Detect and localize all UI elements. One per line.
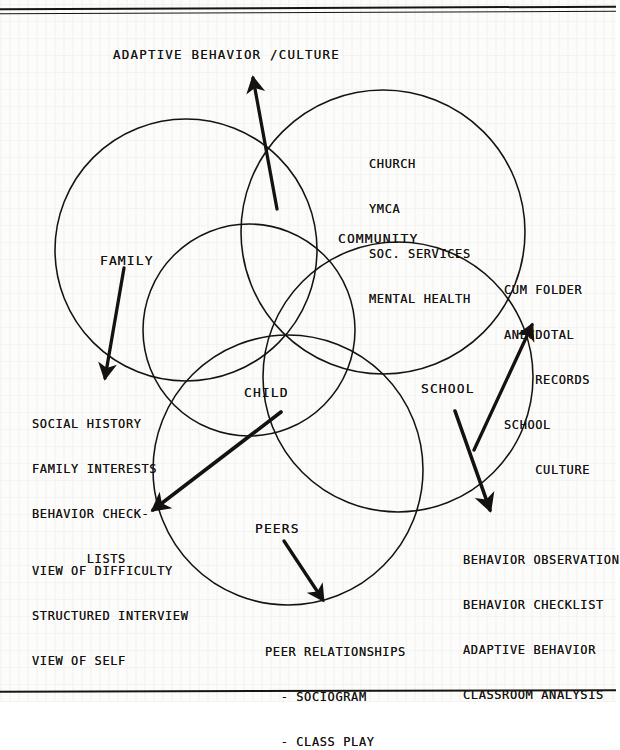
child-measure-item: STRUCTURED INTERVIEW: [32, 609, 189, 624]
family-circle: [55, 119, 317, 381]
school-circle-label: SCHOOL: [421, 382, 475, 397]
adaptive-behavior-culture-label: ADAPTIVE BEHAVIOR /CULTURE: [113, 48, 340, 63]
child-measure-item: VIEW OF DIFFICULTY: [32, 564, 189, 579]
school-record-item: ANECDOTAL: [504, 328, 590, 343]
child-circle: [143, 224, 355, 436]
arrow-adaptive-behavior-culture: [253, 78, 277, 209]
child-measure-item: VIEW OF SELF: [32, 654, 189, 669]
arrow-peer-measures: [284, 541, 323, 600]
peer-measures-list: PEER RELATIONSHIPS - SOCIOGRAM - CLASS P…: [265, 615, 406, 750]
community-circle-label: COMMUNITY: [338, 232, 418, 247]
community-resource-item: MENTAL HEALTH: [369, 292, 471, 307]
family-measure-item: BEHAVIOR CHECK-: [32, 507, 157, 522]
child-circle-label: CHILD: [244, 386, 289, 401]
school-measure-item: BEHAVIOR OBSERVATION: [463, 553, 620, 568]
community-resource-item: CHURCH: [369, 157, 471, 172]
school-record-item: RECORDS: [504, 373, 590, 388]
school-measures-list: BEHAVIOR OBSERVATION BEHAVIOR CHECKLIST …: [463, 523, 620, 733]
peer-measure-item: - CLASS PLAY: [265, 735, 406, 750]
family-measure-item: SOCIAL HISTORY: [32, 417, 157, 432]
school-measure-item: BEHAVIOR CHECKLIST: [463, 598, 620, 613]
school-record-item: CUM FOLDER: [504, 283, 590, 298]
school-measure-item: ADAPTIVE BEHAVIOR: [463, 643, 620, 658]
child-measures-list: VIEW OF DIFFICULTY STRUCTURED INTERVIEW …: [32, 534, 189, 699]
school-records-list: CUM FOLDER ANECDOTAL RECORDS SCHOOL CULT…: [504, 253, 590, 508]
peer-measure-item: - SOCIOGRAM: [265, 690, 406, 705]
arrow-child-measures: [153, 412, 281, 510]
community-resource-item: SOC. SERVICES: [369, 247, 471, 262]
school-record-item: SCHOOL: [504, 418, 590, 433]
family-measure-item: FAMILY INTERESTS: [32, 462, 157, 477]
community-resource-item: YMCA: [369, 202, 471, 217]
family-circle-label: FAMILY: [100, 254, 154, 269]
school-record-item: CULTURE: [504, 463, 590, 478]
peer-measure-item: PEER RELATIONSHIPS: [265, 645, 406, 660]
school-measure-item: CLASSROOM ANALYSIS: [463, 688, 620, 703]
peers-circle-label: PEERS: [255, 522, 300, 537]
arrow-family-measures: [105, 268, 124, 378]
peers-circle: [153, 335, 423, 605]
